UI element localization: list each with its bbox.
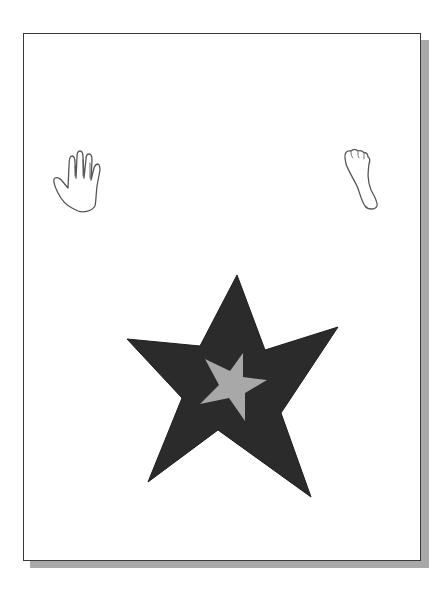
star-icon: [127, 275, 338, 497]
artwork: [0, 0, 448, 592]
hand-icon: [54, 151, 100, 212]
foot-icon: [345, 150, 377, 210]
